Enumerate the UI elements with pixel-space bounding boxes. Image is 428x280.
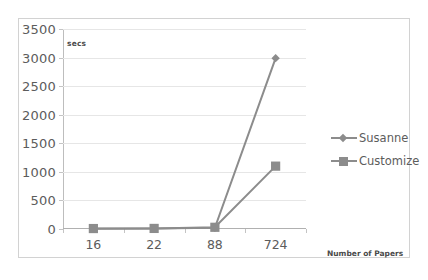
y-axis-tick-label: 500	[31, 193, 56, 208]
x-axis-tick-label: 88	[207, 237, 223, 252]
x-axis-tick	[63, 229, 64, 233]
y-axis-tick-label: 2000	[22, 107, 56, 122]
legend-item-label: Customize	[357, 154, 419, 168]
data-point-marker-customize	[210, 223, 219, 232]
y-axis-tick-label: 3500	[22, 22, 56, 37]
x-axis-title: Number of Papers	[327, 249, 403, 258]
data-point-marker-customize	[89, 224, 98, 233]
y-axis-tick-label: 3000	[22, 50, 56, 65]
square-marker-icon	[331, 155, 357, 167]
data-point-marker-susanne	[271, 54, 279, 62]
y-axis-tick-label: 2500	[22, 79, 56, 94]
series-layer	[63, 29, 306, 229]
legend-item-label: Susanne	[357, 131, 408, 145]
plot-area: 0500100015002000250030003500 162288724	[63, 29, 306, 229]
y-axis-tick-label: 0	[48, 222, 56, 237]
x-axis-tick-label: 724	[264, 237, 288, 252]
y-axis-tick-label: 1000	[22, 164, 56, 179]
x-axis-tick	[185, 229, 186, 233]
series-line-susanne	[93, 58, 275, 229]
y-axis-tick-label: 1500	[22, 136, 56, 151]
chart-legend: SusanneCustomize	[331, 131, 419, 168]
chart-container: secs 0500100015002000250030003500 162288…	[18, 18, 410, 258]
legend-item-susanne[interactable]: Susanne	[331, 131, 419, 145]
x-axis-tick	[306, 229, 307, 233]
x-axis-tick	[245, 229, 246, 233]
series-line-customize	[93, 166, 275, 228]
x-axis-tick-label: 22	[146, 237, 162, 252]
diamond-marker-icon	[331, 132, 357, 144]
x-axis-tick-label: 16	[85, 237, 101, 252]
data-point-marker-customize	[271, 162, 280, 171]
legend-item-customize[interactable]: Customize	[331, 154, 419, 168]
data-point-marker-customize	[150, 224, 159, 233]
